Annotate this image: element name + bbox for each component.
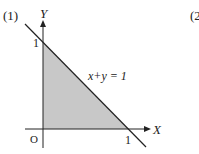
part-2-label: (2 (190, 9, 199, 22)
y-axis-label: Y (40, 7, 47, 20)
part-1-label: (1) (3, 9, 18, 22)
y-axis-arrow-icon (40, 20, 46, 27)
x-intercept-label: 1 (125, 134, 131, 146)
equation-label: x+y = 1 (88, 70, 127, 82)
origin-label: O (30, 134, 38, 145)
x-axis-arrow-icon (144, 126, 151, 132)
y-intercept-label: 1 (33, 37, 39, 49)
x-axis-label: X (153, 123, 161, 136)
